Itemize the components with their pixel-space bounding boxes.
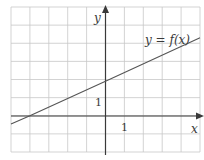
y-axis-arrow-icon xyxy=(102,5,109,13)
y-axis-label: y xyxy=(93,11,101,25)
x-axis-label: x xyxy=(191,122,198,136)
function-graph: y x 1 1 y = f(x) xyxy=(0,0,204,160)
y-tick-label-1: 1 xyxy=(95,96,102,109)
x-tick-label-1: 1 xyxy=(121,121,128,134)
curve-label: y = f(x) xyxy=(144,33,190,47)
